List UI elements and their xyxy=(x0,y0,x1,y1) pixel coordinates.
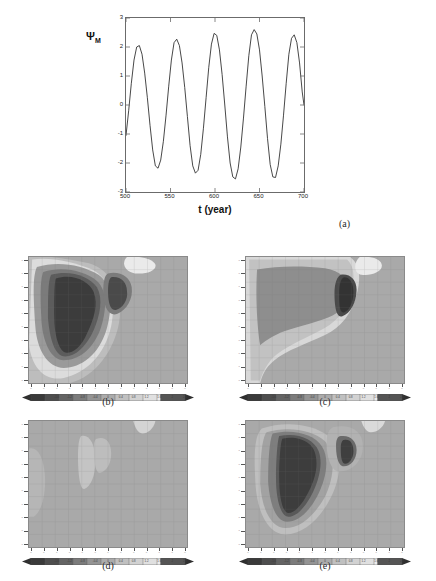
y-tick-label: – xyxy=(230,449,240,452)
y-tick-label: – xyxy=(13,285,23,288)
panel-a-x-tick-label: 600 xyxy=(199,193,229,199)
y-tick-label: – xyxy=(230,312,240,315)
panel-a-line-svg xyxy=(126,18,304,192)
y-tick-label: – xyxy=(230,543,240,546)
panel-a-inner-ticks xyxy=(126,18,304,192)
y-tick-label: – xyxy=(13,463,23,466)
y-tick-label: – xyxy=(13,436,23,439)
y-tick xyxy=(24,531,28,532)
y-tick xyxy=(24,477,28,478)
panel-a-y-tick-label: 1 xyxy=(101,72,123,78)
panel-e-field xyxy=(246,421,404,547)
panel-a-x-tick-label: 650 xyxy=(244,193,274,199)
y-tick-label: – xyxy=(13,379,23,382)
y-tick-label: – xyxy=(13,529,23,532)
panel-b-contour-frame xyxy=(28,256,188,384)
panel-c-contour-frame xyxy=(245,256,405,384)
panel-a-plot-frame xyxy=(125,17,305,193)
y-tick xyxy=(241,340,245,341)
y-tick-label: – xyxy=(230,489,240,492)
y-tick-label: – xyxy=(230,503,240,506)
y-tick xyxy=(24,424,28,425)
y-tick xyxy=(24,380,28,381)
y-tick-label: – xyxy=(230,379,240,382)
y-tick-label: – xyxy=(13,325,23,328)
y-tick xyxy=(24,464,28,465)
y-tick xyxy=(241,437,245,438)
panel-a-y-tick-label: 2 xyxy=(101,43,123,49)
y-tick xyxy=(241,287,245,288)
y-tick xyxy=(241,327,245,328)
y-tick-label: – xyxy=(230,259,240,262)
y-tick-label: – xyxy=(13,259,23,262)
y-tick xyxy=(241,424,245,425)
y-tick xyxy=(241,451,245,452)
y-tick xyxy=(24,340,28,341)
panel-a-data-line xyxy=(126,30,304,179)
y-tick-label: – xyxy=(230,272,240,275)
y-tick xyxy=(241,313,245,314)
y-tick-label: – xyxy=(230,516,240,519)
y-tick-label: – xyxy=(230,463,240,466)
panel-a-y-tick-label: -2 xyxy=(101,159,123,165)
y-tick xyxy=(24,504,28,505)
panel-a-y-axis-title: ΨM xyxy=(86,30,101,44)
panel-e-contour-frame xyxy=(245,420,405,548)
y-tick xyxy=(24,437,28,438)
y-tick xyxy=(241,531,245,532)
y-tick-label: – xyxy=(13,339,23,342)
panel-a: ΨM -3-2-10123 500550600650700 t (year) (… xyxy=(0,0,436,240)
y-tick-label: – xyxy=(230,436,240,439)
panel-b-field xyxy=(29,257,187,383)
y-tick xyxy=(24,367,28,368)
y-tick xyxy=(241,353,245,354)
y-tick-label: – xyxy=(13,449,23,452)
y-tick-label: – xyxy=(13,516,23,519)
y-tick xyxy=(241,367,245,368)
contour-band xyxy=(29,421,187,547)
y-tick-label: – xyxy=(13,476,23,479)
page-footnote-text xyxy=(300,572,436,580)
panel-a-x-tick-label: 500 xyxy=(110,193,140,199)
panel-d-field xyxy=(29,421,187,547)
panel-a-x-axis-title: t (year) xyxy=(125,204,305,215)
panel-a-y-tick-label: -1 xyxy=(101,130,123,136)
y-tick xyxy=(241,491,245,492)
panel-d-contour-frame xyxy=(28,420,188,548)
y-tick xyxy=(24,451,28,452)
y-tick xyxy=(24,260,28,261)
y-tick xyxy=(24,313,28,314)
y-tick xyxy=(241,517,245,518)
y-tick-label: – xyxy=(230,529,240,532)
y-tick xyxy=(24,287,28,288)
y-tick xyxy=(24,353,28,354)
y-tick xyxy=(24,491,28,492)
y-tick-label: – xyxy=(230,299,240,302)
y-tick-label: – xyxy=(13,352,23,355)
y-tick-label: – xyxy=(230,476,240,479)
panel-e-tag: (e) xyxy=(245,560,405,571)
panel-c-tag: (c) xyxy=(245,396,405,407)
panel-a-x-tick-label: 700 xyxy=(288,193,318,199)
y-tick-label: – xyxy=(230,365,240,368)
y-tick xyxy=(241,504,245,505)
y-tick-label: – xyxy=(13,543,23,546)
panel-b-tag: (b) xyxy=(28,396,188,407)
panel-d-tag: (d) xyxy=(28,560,188,571)
y-tick xyxy=(241,544,245,545)
panel-a-tag: (a) xyxy=(339,218,350,229)
panel-a-y-tick-label: 0 xyxy=(101,101,123,107)
y-tick-label: – xyxy=(230,352,240,355)
y-tick xyxy=(241,477,245,478)
y-tick-label: – xyxy=(13,272,23,275)
y-tick-label: – xyxy=(13,312,23,315)
y-tick xyxy=(24,544,28,545)
panel-a-y-tick-label: 3 xyxy=(101,14,123,20)
panel-c-field xyxy=(246,257,404,383)
y-tick-label: – xyxy=(230,325,240,328)
panel-a-x-tick-label: 550 xyxy=(155,193,185,199)
y-tick xyxy=(241,260,245,261)
y-tick xyxy=(241,273,245,274)
y-tick-label: – xyxy=(230,423,240,426)
y-tick xyxy=(24,327,28,328)
